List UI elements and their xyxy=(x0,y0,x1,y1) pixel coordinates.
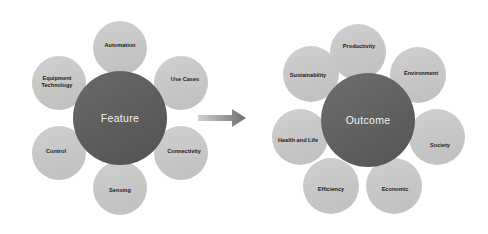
petal-shape-health-and-life xyxy=(272,109,328,165)
diagram-canvas: Feature Automation Use Cases Connectivit… xyxy=(0,0,488,234)
outcome-cluster: Outcome Productivity Environment Society… xyxy=(0,0,488,234)
outcome-cluster-shapes xyxy=(0,0,488,234)
outcome-hub-shape xyxy=(321,73,415,167)
petal-shape-efficiency xyxy=(303,158,359,214)
petal-shape-society xyxy=(409,109,465,165)
